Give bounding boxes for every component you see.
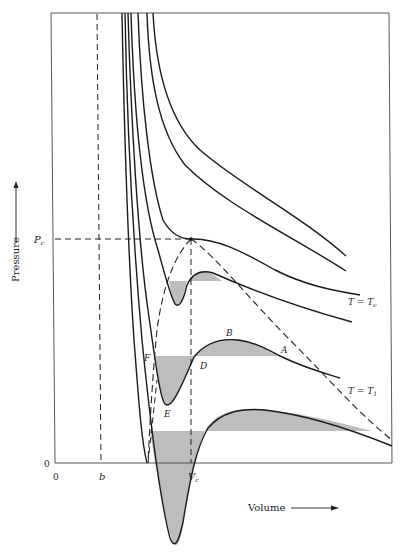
point-a-label: A bbox=[280, 345, 288, 355]
binodal-right bbox=[191, 239, 392, 440]
point-e-label: E bbox=[163, 409, 171, 419]
point-b-label: B bbox=[225, 328, 233, 338]
critical-point bbox=[189, 237, 193, 241]
pc-label: Pc bbox=[33, 234, 45, 246]
isotherm-near-critical bbox=[131, 13, 352, 322]
isotherm-critical bbox=[138, 13, 360, 295]
x-axis-arrowhead-icon bbox=[331, 506, 339, 511]
y-origin-label: 0 bbox=[44, 459, 50, 469]
t1-isotherm-label: T = T1 bbox=[348, 386, 377, 397]
isotherm-hot-1 bbox=[153, 13, 346, 256]
y-axis bbox=[51, 13, 55, 463]
vc-label: Vc bbox=[188, 471, 199, 483]
x-origin-label: 0 bbox=[53, 472, 59, 482]
y-axis-label: Pressure bbox=[10, 237, 21, 282]
x-axis-label-group: Volume bbox=[247, 502, 339, 513]
x-axis-label: Volume bbox=[247, 502, 285, 513]
y-axis-label-group: Pressure bbox=[10, 181, 21, 282]
shade-low-left bbox=[150, 431, 205, 545]
point-d-label: D bbox=[199, 361, 207, 371]
y-axis-arrowhead-icon bbox=[14, 181, 19, 188]
plot-frame bbox=[51, 13, 392, 463]
point-f-label: F bbox=[143, 353, 151, 363]
b-label: b bbox=[99, 471, 105, 482]
critical-isotherm-label: T = Tc bbox=[348, 297, 377, 308]
pv-diagram: Pressure Volume 0 0 b Vc Pc T = Tc T = T… bbox=[0, 0, 400, 557]
shade-t1-right bbox=[195, 339, 278, 356]
